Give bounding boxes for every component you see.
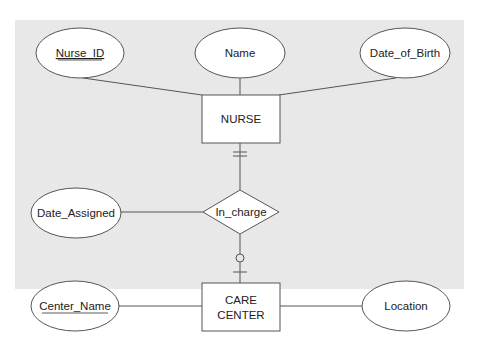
attribute-center-name[interactable]: Center_Name	[31, 281, 119, 331]
attribute-nurse-id[interactable]: Nurse_ID	[36, 28, 124, 78]
entity-care-center-label-2: CENTER	[217, 309, 264, 321]
optional-circle-icon	[236, 254, 244, 262]
attribute-date-assigned-label: Date_Assigned	[37, 207, 115, 219]
attribute-date-of-birth[interactable]: Date_of_Birth	[360, 28, 450, 78]
attribute-date-assigned[interactable]: Date_Assigned	[31, 188, 121, 238]
entity-nurse-label: NURSE	[221, 113, 262, 125]
entity-nurse[interactable]: NURSE	[202, 95, 280, 143]
entity-care-center[interactable]: CARE CENTER	[202, 283, 280, 331]
entity-care-center-label-1: CARE	[225, 294, 257, 306]
er-diagram: NURSE CARE CENTER In_charge Nurse_ID Nam…	[0, 0, 479, 354]
attribute-date-of-birth-label: Date_of_Birth	[370, 47, 440, 59]
attribute-nurse-id-label: Nurse_ID	[56, 47, 105, 59]
relationship-label: In_charge	[215, 206, 266, 218]
attribute-center-name-label: Center_Name	[39, 300, 111, 312]
attribute-location-label: Location	[384, 300, 427, 312]
attribute-location[interactable]: Location	[362, 281, 450, 331]
attribute-name-label: Name	[225, 47, 256, 59]
attribute-name[interactable]: Name	[195, 28, 285, 78]
